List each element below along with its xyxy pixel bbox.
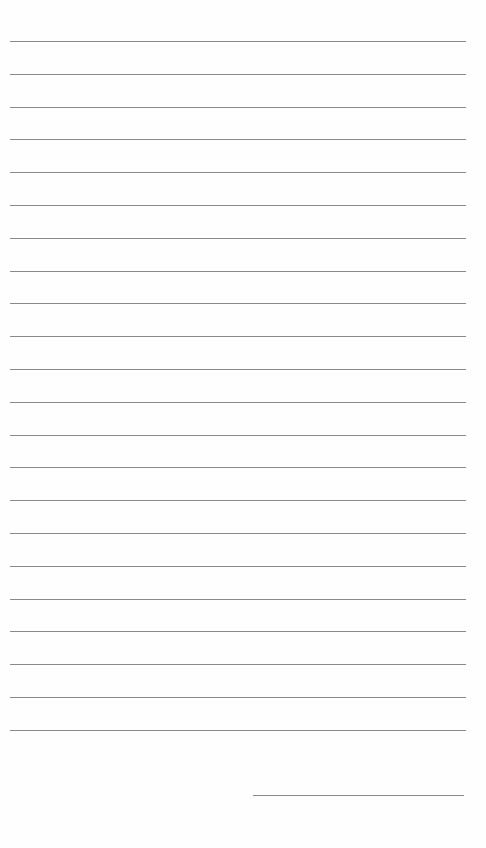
ruled-line	[10, 697, 466, 698]
ruled-line	[10, 599, 466, 600]
ruled-line	[10, 664, 466, 665]
ruled-line	[10, 402, 466, 403]
ruled-line	[10, 41, 466, 42]
ruled-line	[10, 500, 466, 501]
ruled-line	[10, 435, 466, 436]
ruled-line	[10, 631, 466, 632]
ruled-line	[10, 369, 466, 370]
ruled-line	[10, 172, 466, 173]
ruled-line	[10, 303, 466, 304]
ruled-line	[10, 533, 466, 534]
ruled-line	[10, 271, 466, 272]
ruled-line	[10, 139, 466, 140]
ruled-line	[10, 566, 466, 567]
ruled-line	[10, 238, 466, 239]
ruled-line	[10, 730, 466, 731]
lined-page	[0, 0, 486, 848]
ruled-line	[10, 205, 466, 206]
signature-line	[253, 795, 464, 796]
ruled-line	[10, 107, 466, 108]
ruled-line	[10, 336, 466, 337]
ruled-line	[10, 467, 466, 468]
ruled-line	[10, 74, 466, 75]
